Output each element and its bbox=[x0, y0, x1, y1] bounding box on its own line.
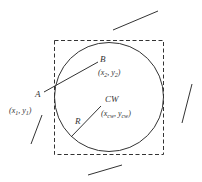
stray-line-top bbox=[113, 11, 158, 30]
stray-line-right bbox=[182, 84, 192, 123]
label-radius: R bbox=[74, 116, 81, 126]
circle-square-diagram: A (x1, y1) B (x2, y2) CW (xcw, ycw) R bbox=[0, 0, 202, 182]
stray-line-bottom bbox=[88, 165, 122, 175]
label-point-a-coords: (x1, y1) bbox=[9, 106, 32, 116]
label-point-a: A bbox=[34, 89, 41, 99]
label-center-coords: (xcw, ycw) bbox=[101, 109, 131, 119]
label-center-cw: CW bbox=[105, 94, 120, 104]
stray-line-left bbox=[31, 115, 42, 144]
label-point-b: B bbox=[100, 54, 106, 64]
line-a-to-b bbox=[44, 62, 98, 92]
label-point-b-coords: (x2, y2) bbox=[98, 68, 121, 78]
